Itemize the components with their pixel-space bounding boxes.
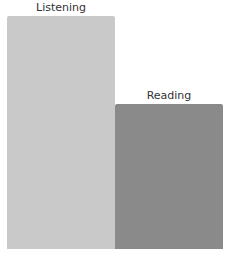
bar-label-listening: Listening [7,1,115,14]
bar-reading [115,104,223,249]
bar-listening [7,16,115,249]
bar-label-reading: Reading [115,89,223,102]
